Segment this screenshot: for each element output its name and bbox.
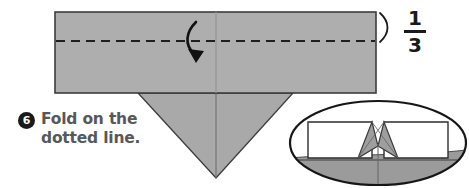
downward-triangle-flap bbox=[138, 93, 293, 178]
fraction-denominator: 3 bbox=[398, 35, 432, 55]
instruction-line-1: Fold on the bbox=[41, 110, 137, 128]
step-instruction: 6 Fold on thedotted line. bbox=[18, 110, 140, 148]
fraction-numerator: 1 bbox=[398, 8, 432, 28]
paper-rectangle bbox=[55, 12, 376, 93]
origami-step-diagram: 6 Fold on thedotted line. 1 3 bbox=[0, 0, 469, 188]
fraction-label-one-third: 1 3 bbox=[398, 8, 432, 55]
measure-bracket-icon bbox=[380, 13, 388, 42]
step-instruction-text: Fold on thedotted line. bbox=[41, 110, 140, 148]
instruction-line-2: dotted line. bbox=[41, 129, 140, 147]
oval-detail-inset bbox=[290, 101, 466, 186]
step-number-badge: 6 bbox=[18, 112, 35, 129]
